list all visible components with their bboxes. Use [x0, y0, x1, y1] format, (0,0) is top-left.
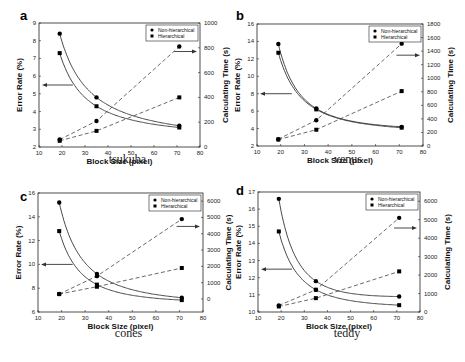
marker-circle: [94, 119, 98, 123]
marker-circle: [314, 279, 318, 283]
marker-square: [397, 269, 401, 273]
chart-panel-c: c102030405060708068101214160100020003000…: [14, 189, 233, 340]
y2-tick-label: 800: [427, 89, 438, 95]
calc-time-line: [279, 218, 399, 306]
y-tick-label: 14: [28, 214, 35, 220]
legend-circle-icon: [373, 29, 376, 32]
legend: Non-hierarchicalHierarchical: [146, 25, 198, 41]
marker-square: [277, 229, 281, 233]
marker-square: [400, 89, 404, 93]
y-tick-label: 16: [248, 206, 255, 212]
marker-square: [180, 298, 184, 302]
marker-circle: [177, 44, 181, 48]
y-tick-label: 8: [33, 38, 37, 44]
calc-time-line: [278, 44, 401, 140]
x-tick-label: 20: [277, 149, 284, 155]
error-rate-curve: [279, 199, 399, 297]
legend-label: Hierarchical: [378, 202, 404, 208]
calc-time-line: [278, 91, 401, 140]
y-axis-label: Error Rate (%): [233, 58, 242, 112]
y-tick-label: 12: [28, 238, 35, 244]
marker-square: [314, 296, 318, 300]
arrow-left-icon: [260, 92, 265, 96]
y2-tick-label: 1600: [427, 35, 441, 41]
x-tick-label: 60: [372, 149, 379, 155]
x-tick-label: 80: [420, 149, 427, 155]
y-tick-label: 11: [249, 292, 256, 298]
chart-panel-b: b102030405060708024681012141602004006008…: [233, 8, 455, 166]
panel-letter: c: [20, 189, 27, 204]
y2-tick-label: 1200: [427, 62, 441, 68]
x-tick-label: 20: [58, 315, 65, 321]
y2-tick-label: 6000: [207, 198, 221, 204]
marker-square: [180, 266, 184, 270]
y-tick-label: 14: [248, 240, 255, 246]
calc-time-line: [60, 97, 180, 140]
marker-square: [58, 139, 62, 143]
y-axis-label: Error Rate (%): [15, 58, 24, 112]
marker-square: [95, 129, 99, 133]
panel-caption: teddy: [334, 326, 361, 340]
y-tick-label: 4: [251, 126, 255, 132]
error-rate-curve: [59, 203, 182, 298]
chart-panel-a: a102030405060708023456789020040060080010…: [15, 8, 230, 166]
legend-circle-icon: [370, 197, 373, 200]
marker-circle: [314, 288, 318, 292]
arrow-left-icon: [261, 267, 266, 271]
y2-tick-label: 2000: [424, 272, 438, 278]
calc-time-line: [279, 271, 399, 306]
y2-tick-label: 3000: [424, 254, 438, 260]
marker-square: [314, 128, 318, 132]
marker-circle: [57, 200, 61, 204]
x-tick-label: 80: [200, 315, 207, 321]
y2-tick-label: 800: [204, 45, 215, 51]
y2-tick-label: 0: [427, 143, 431, 149]
marker-square: [177, 95, 181, 99]
y-tick-label: 6: [33, 73, 37, 79]
y-axis-label: Error Rate (%): [234, 225, 243, 279]
y-tick-label: 10: [248, 309, 255, 315]
chart-panel-d: d102030405060708010111213141516170100020…: [234, 183, 452, 340]
marker-square: [57, 229, 61, 233]
error-rate-curve: [279, 231, 399, 305]
marker-square: [276, 138, 280, 142]
y2-tick-label: 1000: [424, 291, 438, 297]
x-tick-label: 70: [394, 315, 401, 321]
y2-tick-label: 1000: [427, 75, 441, 81]
y2-axis-label: Calculating Time (s): [446, 47, 455, 123]
marker-circle: [276, 42, 280, 46]
y2-axis-label: Calculating Time (s): [221, 47, 230, 123]
x-tick-label: 30: [82, 150, 89, 156]
arrow-right-icon: [192, 50, 197, 54]
y-tick-label: 13: [248, 258, 255, 264]
y2-tick-label: 1000: [207, 280, 221, 286]
y-tick-label: 15: [248, 223, 255, 229]
marker-square: [276, 51, 280, 55]
x-tick-label: 20: [59, 150, 66, 156]
x-tick-label: 10: [35, 315, 42, 321]
legend-circle-icon: [150, 28, 153, 31]
panel-caption: tsukuba: [109, 152, 147, 166]
y-tick-label: 3: [33, 126, 37, 132]
x-tick-label: 40: [324, 315, 331, 321]
x-tick-label: 60: [370, 315, 377, 321]
y-tick-label: 12: [247, 56, 254, 62]
arrow-right-icon: [412, 226, 417, 230]
y2-tick-label: 200: [204, 119, 215, 125]
marker-circle: [397, 294, 401, 298]
y2-tick-label: 1000: [204, 20, 218, 26]
x-tick-label: 80: [197, 150, 204, 156]
calc-time-line: [59, 219, 182, 294]
x-tick-label: 70: [174, 150, 181, 156]
x-tick-label: 30: [82, 315, 89, 321]
x-tick-label: 60: [151, 150, 158, 156]
y2-tick-label: 5000: [424, 217, 438, 223]
y2-tick-label: 400: [427, 116, 438, 122]
y2-tick-label: 600: [427, 102, 438, 108]
x-tick-label: 30: [301, 149, 308, 155]
panel-letter: b: [236, 8, 244, 23]
arrow-left-icon: [41, 262, 46, 266]
error-rate-curve: [59, 231, 182, 300]
legend: Non-hierarchicalHierarchical: [369, 26, 421, 42]
marker-square: [314, 107, 318, 111]
